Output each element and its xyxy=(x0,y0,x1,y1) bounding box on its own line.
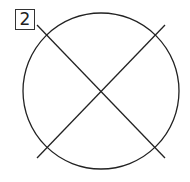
figure-label: 2 xyxy=(15,9,35,30)
